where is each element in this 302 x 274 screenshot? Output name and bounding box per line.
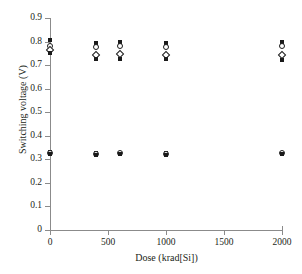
data-point <box>93 44 99 50</box>
y-axis-title: Switching voltage (V) <box>17 30 28 190</box>
data-point <box>163 44 169 50</box>
data-point <box>117 43 123 49</box>
x-tick-label-500: 500 <box>83 237 133 247</box>
x-tick-1000 <box>166 231 167 235</box>
data-point <box>279 43 285 49</box>
data-point <box>280 58 284 62</box>
y-tick-label-0: 0 <box>2 225 42 235</box>
data-point <box>164 153 168 157</box>
x-tick-label-2000: 2000 <box>257 237 302 247</box>
chart-figure: 00.10.20.30.40.50.60.70.80.9 05001000150… <box>0 0 302 274</box>
x-tick-2000 <box>282 231 283 235</box>
y-tick-label-0.9: 0.9 <box>2 13 42 23</box>
data-point <box>48 38 52 42</box>
data-point <box>48 51 52 55</box>
data-point <box>118 57 122 61</box>
data-point <box>280 152 284 156</box>
x-tick-0 <box>50 231 51 235</box>
data-point <box>48 152 52 156</box>
x-axis-title: Dose (krad[Si]) <box>50 252 283 263</box>
data-point <box>94 57 98 61</box>
plot-area <box>50 18 282 230</box>
x-tick-label-1500: 1500 <box>199 237 249 247</box>
data-point <box>94 153 98 157</box>
data-point <box>118 152 122 156</box>
x-tick-500 <box>108 231 109 235</box>
x-tick-label-1000: 1000 <box>141 237 191 247</box>
data-point <box>164 57 168 61</box>
x-tick-1500 <box>224 231 225 235</box>
y-tick-label-0.1: 0.1 <box>2 201 42 211</box>
x-tick-label-0: 0 <box>25 237 75 247</box>
